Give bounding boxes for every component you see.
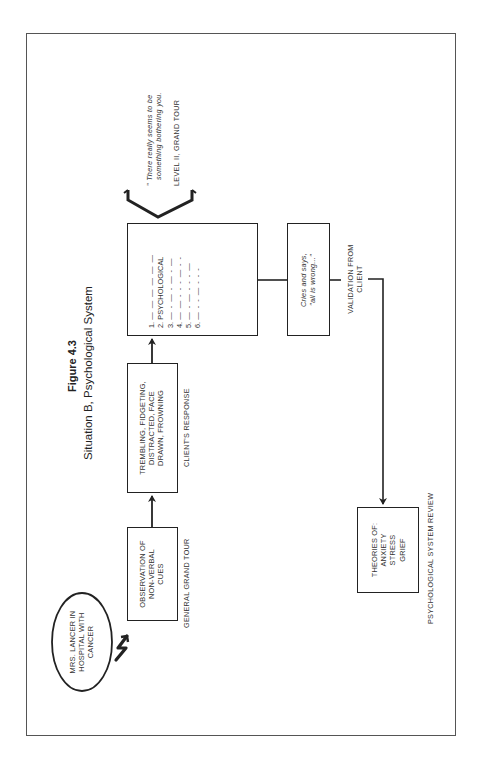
observation-line: OBSERVATION OF — [138, 540, 147, 607]
response-text: TREMBLING, FIDGETING, DISTRACTED, FACE D… — [138, 381, 166, 475]
validation-text: Cries and says, "all is wrong..." — [299, 253, 317, 307]
systems-list: 1. — — — — — — 2. PSYCHOLOGICAL 3. — - —… — [147, 254, 203, 328]
patient-line: CANCER — [87, 611, 96, 674]
validation-caption: VALIDATION FROM CLIENT — [346, 244, 364, 313]
observation-line: CUES — [157, 540, 166, 607]
response-line: DRAWN, FROWNING — [157, 381, 166, 475]
response-caption: CLIENT'S RESPONSE — [182, 388, 191, 467]
observation-line: NON-VERBAL — [147, 540, 156, 607]
figure-number: Figure 4.3 — [66, 340, 78, 392]
chevron-down-icon — [128, 190, 192, 217]
patient-node: MRS. LANCER IN HOSPITAL WITH CANCER — [68, 611, 96, 674]
level-two-quote: " There really seems to be something bot… — [145, 92, 163, 186]
systems-item: 1. — — — — — — — [147, 254, 156, 328]
hook-arrow-icon — [116, 636, 127, 660]
response-line: TREMBLING, FIDGETING, — [138, 381, 147, 475]
systems-item: 3. — - — - — - — — [166, 254, 175, 328]
validation-line: "all is wrong..." — [308, 253, 317, 307]
observation-text: OBSERVATION OF NON-VERBAL CUES — [138, 540, 166, 607]
theories-line: GRIEF — [397, 523, 406, 578]
observation-caption: GENERAL GRAND TOUR — [182, 538, 191, 628]
patient-line: MRS. LANCER IN — [68, 611, 77, 674]
response-line: DISTRACTED, FACE — [147, 381, 156, 475]
patient-line: HOSPITAL WITH — [77, 611, 86, 674]
theories-text: THEORIES OF: ANXIETY STRESS GRIEF — [370, 523, 407, 578]
systems-item: 2. PSYCHOLOGICAL — [156, 254, 165, 328]
figure-title: Situation B, Psychological System — [82, 286, 94, 460]
systems-item: 6. — - - — - - - — [193, 254, 202, 328]
theories-line: STRESS — [388, 523, 397, 578]
validation-line: Cries and says, — [299, 253, 308, 307]
theories-line: ANXIETY — [379, 523, 388, 578]
theories-line: THEORIES OF: — [370, 523, 379, 578]
systems-item: 5. — - — - - - — — [184, 254, 193, 328]
theories-caption: PSYCHOLOGICAL SYSTEM REVIEW — [426, 493, 435, 624]
systems-item: 4. — — - - - — - - — [175, 254, 184, 328]
arrow-validation-to-theories — [368, 279, 383, 504]
level-two-caption: LEVEL II, GRAND TOUR — [172, 100, 181, 186]
